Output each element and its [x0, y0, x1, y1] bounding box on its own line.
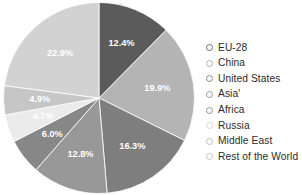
pie-slice-value-label: 4.9% [29, 94, 50, 104]
legend-item[interactable]: Asia' [206, 87, 300, 103]
legend-item-label: Rest of the World [218, 152, 298, 162]
legend-marker-circle-icon [206, 91, 213, 98]
legend-item-label: Africa [218, 105, 245, 115]
legend-marker-circle-icon [206, 153, 213, 160]
pie-slice-value-label: 12.8% [67, 149, 93, 159]
pie-chart-svg: 12.4%19.9%16.3%12.8%6.0%4.7%4.9%22.9% [2, 1, 196, 195]
legend-item[interactable]: Africa [206, 102, 300, 118]
legend-item-label: Russia [218, 121, 250, 131]
pie-chart-plot-area: 12.4%19.9%16.3%12.8%6.0%4.7%4.9%22.9% [2, 1, 196, 195]
pie-slice-value-label: 6.0% [42, 129, 63, 139]
legend-marker-circle-icon [206, 122, 213, 129]
legend-item[interactable]: Russia [206, 118, 300, 134]
legend-item[interactable]: Rest of the World [206, 149, 300, 165]
pie-chart-figure: 12.4%19.9%16.3%12.8%6.0%4.7%4.9%22.9% EU… [0, 0, 302, 195]
legend-marker-circle-icon [206, 44, 213, 51]
legend-item[interactable]: United States [206, 71, 300, 87]
legend-item-label: China [218, 58, 245, 68]
pie-slice-value-label: 4.7% [32, 111, 53, 121]
legend-item-label: Asia' [218, 89, 240, 99]
legend-marker-circle-icon [206, 138, 213, 145]
legend-item-label: Middle East [218, 136, 272, 146]
pie-slice-value-label: 22.9% [47, 48, 73, 58]
legend-marker-circle-icon [206, 60, 213, 67]
legend-item-label: United States [218, 74, 280, 84]
legend-item[interactable]: Middle East [206, 134, 300, 150]
chart-legend: EU-28ChinaUnited StatesAsia'AfricaRussia… [206, 40, 300, 165]
pie-slice-value-label: 12.4% [108, 38, 134, 48]
legend-item[interactable]: EU-28 [206, 40, 300, 56]
legend-item[interactable]: China [206, 56, 300, 72]
legend-marker-circle-icon [206, 75, 213, 82]
pie-slice-value-label: 19.9% [144, 83, 170, 93]
legend-item-label: EU-28 [218, 43, 247, 53]
legend-marker-circle-icon [206, 107, 213, 114]
pie-slice-value-label: 16.3% [119, 141, 145, 151]
